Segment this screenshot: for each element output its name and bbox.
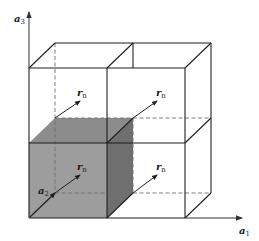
axis-label-a2: a2	[38, 186, 49, 198]
axis-label-a3: a3	[14, 14, 25, 26]
cubic-lattice-diagram	[0, 0, 259, 241]
rn-label-bottom-left: rn	[77, 162, 87, 174]
rn-label-bottom-right: rn	[156, 162, 166, 174]
rn-arrow-top-left	[55, 101, 80, 118]
rn-label-top-left: rn	[77, 88, 87, 100]
rn-arrow-top-right	[133, 101, 157, 118]
rn-label-top-right: rn	[156, 88, 166, 100]
axis-label-a1: a1	[239, 226, 250, 238]
rn-arrow-bottom-right	[133, 175, 157, 193]
